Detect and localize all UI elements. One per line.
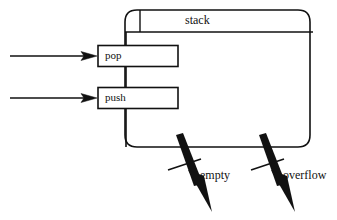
diagram-canvas: stack pop push empty overflow [0,0,337,220]
incoming-arrow-push [10,94,97,103]
empty-exception-label: empty [200,169,230,181]
overflow-exception-label: overflow [283,169,326,181]
stack-component-body[interactable] [125,10,313,147]
pop-port-label: pop [105,50,122,61]
stack-body-outline [125,10,310,147]
push-port-label: push [105,92,126,103]
stack-component-diagram [0,0,337,220]
incoming-arrow-pop [10,52,97,61]
stack-title-label: stack [185,14,210,26]
